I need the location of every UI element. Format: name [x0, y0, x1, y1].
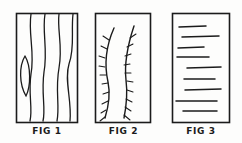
barb [125, 54, 131, 56]
fig2-frame [96, 14, 151, 123]
fig3-strata-lines [176, 26, 221, 111]
figure-caption-fig1: FIG 1 [15, 126, 79, 136]
figure-panel-fig1 [15, 12, 79, 124]
grain-line [57, 14, 60, 121]
stem [124, 26, 134, 118]
figure-caption-fig2: FIG 2 [94, 126, 153, 136]
fig3-drawing [171, 12, 231, 124]
figure-caption-fig3: FIG 3 [171, 126, 231, 136]
fig1-grain-lines [30, 14, 73, 121]
barb [100, 117, 105, 121]
strata-line [187, 67, 221, 68]
grain-line [30, 14, 32, 121]
strata-line [185, 89, 221, 90]
barb [101, 110, 106, 113]
barb [99, 66, 105, 67]
barb [102, 101, 108, 104]
figure-plate: FIG 1 FIG 2 FIG 3 [0, 0, 242, 143]
stem [105, 28, 114, 118]
fig1-drawing [15, 12, 79, 124]
barb [127, 90, 133, 92]
grain-line [43, 14, 45, 121]
fig2-barbs [99, 34, 136, 121]
figure-panel-fig3 [171, 12, 231, 124]
barb [127, 81, 133, 82]
strata-line [179, 26, 206, 27]
barb [99, 56, 105, 58]
fig2-drawing [94, 12, 152, 124]
barb [124, 64, 130, 65]
strata-line [178, 47, 204, 48]
barb [103, 36, 109, 40]
barb [102, 83, 108, 84]
figure-panel-fig2 [94, 12, 152, 124]
grain-line [67, 14, 73, 121]
barb [124, 115, 130, 120]
barb [101, 46, 107, 49]
barb [103, 92, 109, 94]
knot-loop [21, 56, 30, 96]
strata-line [182, 36, 219, 37]
